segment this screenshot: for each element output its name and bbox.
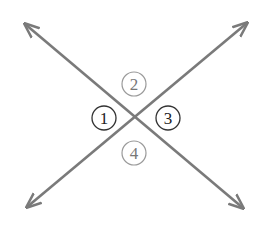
angle-3-text: 3 <box>164 109 173 128</box>
angle-4-text: 4 <box>130 144 139 163</box>
angle-label-3: 3 <box>156 106 180 130</box>
angle-2-text: 2 <box>130 75 139 94</box>
intersecting-lines-diagram: 1 2 3 4 <box>0 0 270 227</box>
angle-label-1: 1 <box>92 106 116 130</box>
angle-1-text: 1 <box>100 109 109 128</box>
angle-label-2: 2 <box>122 72 146 96</box>
angle-label-4: 4 <box>122 141 146 165</box>
line-b <box>27 23 247 207</box>
